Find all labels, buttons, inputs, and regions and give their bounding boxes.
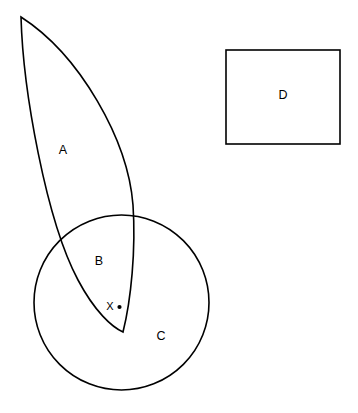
region-label-b: B: [95, 254, 103, 268]
point-marker-dot: [117, 305, 121, 309]
circle-shape-c: [34, 215, 209, 390]
region-label-a: A: [59, 143, 68, 157]
lens-shape-a: [21, 17, 134, 332]
region-label-c: C: [156, 329, 165, 343]
diagram-root: A B C D X: [0, 0, 358, 413]
region-label-d: D: [278, 88, 287, 102]
point-label-x: X: [106, 300, 114, 312]
figure-canvas: A B C D X: [0, 0, 358, 413]
